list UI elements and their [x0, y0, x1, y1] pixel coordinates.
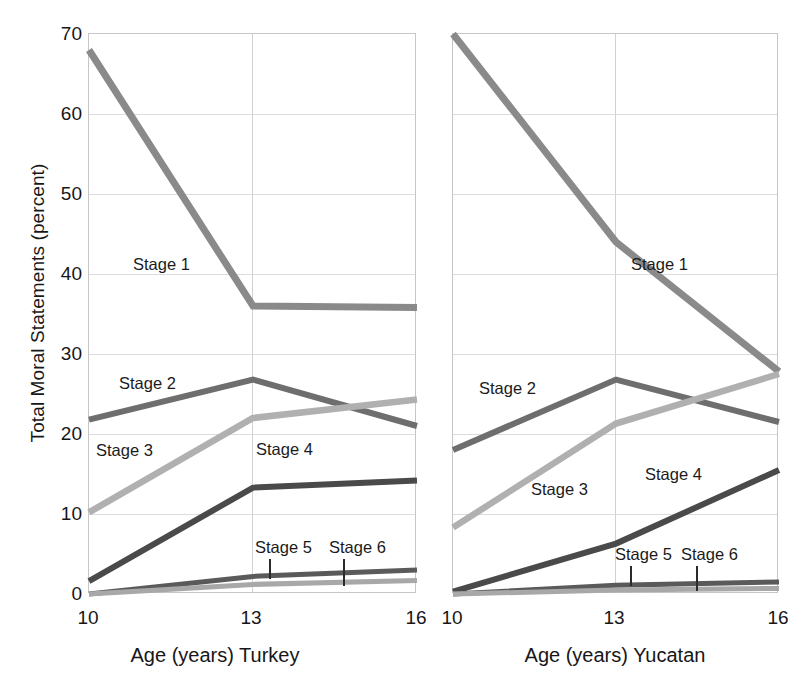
series-lines-yucatan	[453, 34, 779, 594]
x-axis-label-turkey: Age (years) Turkey	[0, 645, 430, 665]
x-tick-13-turkey: 13	[221, 608, 281, 627]
plot-area-turkey: Stage 1 Stage 2 Stage 3 Stage 4 Stage 5 …	[88, 33, 416, 593]
series-label-stage5-yucatan: Stage 5	[615, 546, 672, 563]
figure-root: Total Moral Statements (percent) 70 60 5…	[0, 0, 800, 688]
series-label-stage2-turkey: Stage 2	[119, 375, 176, 392]
series-label-stage4-yucatan: Stage 4	[645, 466, 702, 483]
x-axis-label-yucatan: Age (years) Yucatan	[430, 645, 800, 665]
series-label-stage1-turkey: Stage 1	[133, 256, 190, 273]
series-label-stage6-yucatan: Stage 6	[681, 546, 738, 563]
series-lines-turkey	[89, 34, 417, 594]
series-label-stage1-yucatan: Stage 1	[631, 256, 688, 273]
line-stage1	[453, 34, 779, 372]
leader-stage5-yucatan	[630, 566, 632, 586]
panel-yucatan: Stage 1 Stage 2 Stage 3 Stage 4 Stage 5 …	[430, 0, 800, 688]
leader-stage6-turkey	[343, 559, 345, 586]
plot-area-yucatan: Stage 1 Stage 2 Stage 3 Stage 4 Stage 5 …	[452, 33, 778, 593]
series-label-stage3-yucatan: Stage 3	[531, 481, 588, 498]
series-label-stage4-turkey: Stage 4	[256, 441, 313, 458]
panel-turkey: Stage 1 Stage 2 Stage 3 Stage 4 Stage 5 …	[0, 0, 430, 688]
series-label-stage3-turkey: Stage 3	[96, 442, 153, 459]
series-label-stage2-yucatan: Stage 2	[479, 380, 536, 397]
series-label-stage5-turkey: Stage 5	[255, 539, 312, 556]
x-tick-10-turkey: 10	[58, 608, 118, 627]
line-stage4	[453, 470, 779, 592]
x-tick-16-yucatan: 16	[748, 608, 800, 627]
leader-stage6-yucatan	[696, 566, 698, 591]
x-tick-13-yucatan: 13	[584, 608, 644, 627]
line-stage3	[453, 374, 779, 528]
line-stage4	[89, 480, 417, 581]
x-tick-10-yucatan: 10	[422, 608, 482, 627]
series-label-stage6-turkey: Stage 6	[329, 539, 386, 556]
leader-stage5-turkey	[269, 559, 271, 579]
